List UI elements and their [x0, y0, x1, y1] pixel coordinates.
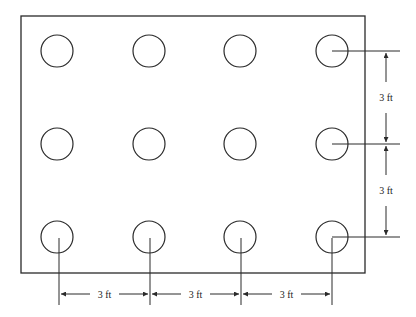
circle	[133, 221, 165, 253]
horizontal-dimension-3: 3 ft	[243, 289, 330, 300]
circle	[41, 128, 73, 160]
vertical-dimension-2: 3 ft	[379, 146, 393, 235]
dimension-label: 3 ft	[98, 289, 112, 300]
dimension-label: 3 ft	[379, 185, 393, 196]
circle	[41, 35, 73, 67]
vertical-dimension-1: 3 ft	[379, 53, 393, 142]
circle-row-1	[41, 35, 348, 67]
circle	[41, 221, 73, 253]
dimension-label: 3 ft	[280, 289, 294, 300]
horizontal-dimension-2: 3 ft	[152, 289, 239, 300]
circle	[224, 221, 256, 253]
circle	[224, 128, 256, 160]
dimension-label: 3 ft	[379, 92, 393, 103]
dimension-label: 3 ft	[189, 289, 203, 300]
circle	[133, 128, 165, 160]
horizontal-dimension-1: 3 ft	[61, 289, 148, 300]
circle-row-2	[41, 128, 348, 160]
circle	[224, 35, 256, 67]
circle-row-3	[41, 221, 348, 253]
circle	[133, 35, 165, 67]
pile-grid-diagram: 3 ft 3 ft 3 ft 3 ft 3 ft	[0, 0, 416, 317]
right-extension-lines	[332, 51, 400, 237]
